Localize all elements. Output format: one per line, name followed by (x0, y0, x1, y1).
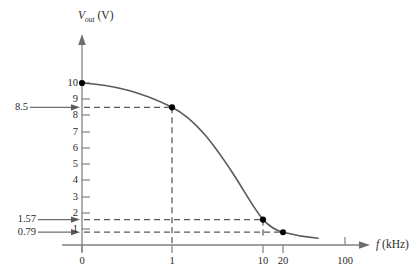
x-tick-label-20: 20 (270, 256, 296, 267)
y-tick-label-10: 10 (56, 78, 78, 89)
y-tick-label-8: 8 (56, 110, 78, 121)
guide-lines-group (84, 107, 283, 245)
annotation-label-8p5: 8.5 (0, 102, 28, 113)
annotation-label-1p57: 1.57 (2, 214, 36, 225)
x-axis-arrowhead (359, 241, 370, 249)
y-axis-title-unit: (V) (98, 9, 114, 21)
y-axis-title-subscript: out (85, 15, 95, 24)
y-ticks-group (82, 83, 90, 229)
x-axis-title-symbol: f (376, 238, 379, 250)
x-tick-label-100: 100 (332, 256, 358, 267)
data-point-10khz (260, 217, 266, 223)
y-axis-arrowhead (78, 34, 86, 45)
x-axis-title-unit: (kHz) (382, 238, 409, 250)
y-tick-label-4: 4 (56, 175, 78, 186)
data-point-1khz (169, 104, 175, 110)
y-tick-label-9: 9 (56, 94, 78, 105)
data-points-group (79, 80, 286, 235)
data-point-20khz (280, 229, 286, 235)
y-tick-label-1: 1 (56, 224, 78, 235)
y-axis-title-symbol: V (78, 9, 85, 21)
annotation-label-0p79: 0.79 (2, 227, 36, 238)
y-tick-label-7: 7 (56, 127, 78, 138)
y-tick-label-5: 5 (56, 159, 78, 170)
response-curve (82, 83, 318, 238)
y-tick-label-2: 2 (56, 208, 78, 219)
x-tick-label-0: 0 (69, 256, 95, 267)
x-tick-label-1: 1 (159, 256, 185, 267)
data-point-0khz (79, 80, 85, 86)
y-tick-label-3: 3 (56, 192, 78, 203)
y-tick-label-6: 6 (56, 143, 78, 154)
x-axis-title: f (kHz) (376, 239, 409, 251)
figure-container: Vout (V) f (kHz) 10 9 8 7 6 5 4 3 2 1 0 … (0, 0, 420, 275)
y-axis-title: Vout (V) (78, 10, 113, 22)
